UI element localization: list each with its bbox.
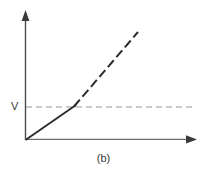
response-line-dashed	[74, 32, 138, 107]
figure-container: V (b)	[0, 0, 207, 175]
figure-caption: (b)	[0, 153, 207, 164]
response-line-solid	[26, 105, 77, 140]
x-axis-arrow-icon	[186, 135, 197, 143]
y-axis-arrow-icon	[22, 10, 30, 21]
plot-area	[0, 0, 207, 175]
v-threshold-label: V	[11, 101, 18, 112]
